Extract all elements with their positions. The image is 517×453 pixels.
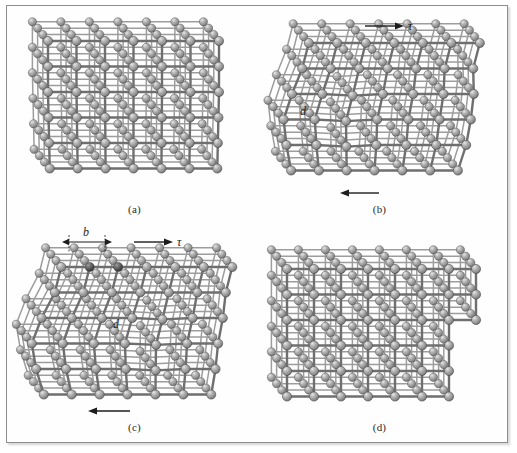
lattice-diagram-a [12,13,257,198]
panel-d-caption: (d) [257,421,502,433]
lattice-diagram-b [257,13,502,198]
figure-root: (a) τ d (b) [0,0,517,453]
lattice-diagram-d [257,241,502,431]
panel-b-caption: (b) [257,203,502,215]
lattice-diagram-c [12,241,257,431]
panel-b: τ d (b) [257,13,502,223]
panel-c: b τ d (c) [12,227,257,439]
panel-a-caption: (a) [12,203,257,215]
panel-d: (d) [257,227,502,439]
burgers-vector-label-c: b [83,227,89,239]
panel-a: (a) [12,13,257,223]
figure-panels: (a) τ d (b) [6,5,508,443]
panel-c-caption: (c) [12,421,257,433]
